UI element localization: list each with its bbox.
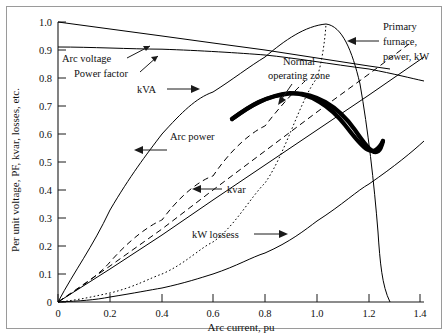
annotation-arc-power: Arc power xyxy=(170,131,215,142)
curve-kw-lossess xyxy=(58,141,424,302)
arc-power-arrowhead xyxy=(134,146,143,154)
y-tick-label-0: 0 xyxy=(47,297,52,308)
annotation-kva: kVA xyxy=(137,84,156,95)
x-tick-label-2: 0.4 xyxy=(155,308,169,319)
y-tick-label-3: 0.3 xyxy=(39,213,52,224)
y-axis-ticks xyxy=(58,22,66,302)
annotation-primary-furnace-line3: power, kW xyxy=(383,51,429,62)
kw-lossess-arrowhead xyxy=(279,230,288,238)
x-tick-label-6: 1.2 xyxy=(362,308,375,319)
x-tick-label-1: 0.2 xyxy=(103,308,116,319)
x-axis-ticks xyxy=(58,294,420,302)
curve-normal-operating-zone xyxy=(232,93,383,151)
annotation-primary-furnace-line2: furnace, xyxy=(383,36,417,47)
x-axis-title: Arc current, pu xyxy=(208,321,275,333)
curves-group xyxy=(58,22,424,302)
annotation-normal-zone-line1: Normal xyxy=(283,56,315,67)
y-tick-label-5: 0.5 xyxy=(39,157,52,168)
y-tick-label-9: 0.9 xyxy=(39,45,52,56)
chart-figure: 0 0.1 0.2 0.3 0.4 0.5 0.6 0.7 0.8 0.9 1.… xyxy=(0,0,448,335)
chart-svg: 0 0.1 0.2 0.3 0.4 0.5 0.6 0.7 0.8 0.9 1.… xyxy=(0,0,448,335)
kva-arrowhead xyxy=(191,85,200,93)
curve-kva xyxy=(58,57,424,302)
y-tick-label-7: 0.7 xyxy=(39,101,52,112)
annotation-kw-lossess: kW lossess xyxy=(192,229,239,240)
primary-furnace-arrowhead xyxy=(347,37,356,45)
annotation-primary-furnace-line1: Primary xyxy=(383,21,418,32)
curve-arc-power xyxy=(58,44,409,302)
curve-primary-furnace-power xyxy=(58,24,390,302)
y-tick-label-1: 0.1 xyxy=(39,269,52,280)
y-axis-title: Per unit voltage, PF, kvar, losses, etc. xyxy=(9,88,21,252)
y-tick-label-2: 0.2 xyxy=(39,241,52,252)
axes-group: 0 0.1 0.2 0.3 0.4 0.5 0.6 0.7 0.8 0.9 1.… xyxy=(9,17,427,333)
y-tick-label-4: 0.4 xyxy=(39,185,53,196)
y-tick-label-6: 0.6 xyxy=(39,129,52,140)
kvar-arrowhead xyxy=(192,185,201,193)
x-tick-label-7: 1.4 xyxy=(413,308,427,319)
annotation-arc-voltage: Arc voltage xyxy=(62,53,112,64)
x-tick-label-5: 1.0 xyxy=(310,308,323,319)
annotation-normal-zone-line2: operating zone xyxy=(268,70,330,81)
annotation-power-factor: Power factor xyxy=(74,68,128,79)
y-tick-label-10: 1.0 xyxy=(39,17,52,28)
x-tick-label-4: 0.8 xyxy=(258,308,271,319)
annotation-kvar: kvar xyxy=(227,184,246,195)
x-tick-label-3: 0.6 xyxy=(206,308,219,319)
x-tick-label-0: 0 xyxy=(55,308,60,319)
y-tick-label-8: 0.8 xyxy=(39,73,52,84)
